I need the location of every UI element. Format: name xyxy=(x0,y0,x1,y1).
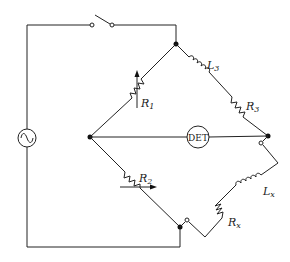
detector-label: DET xyxy=(188,133,208,143)
svg-text:R2: R2 xyxy=(138,172,152,186)
resistor-r1: R1 xyxy=(90,44,176,137)
svg-text:R3: R3 xyxy=(245,100,259,114)
switch xyxy=(90,15,176,44)
right-terminal xyxy=(259,141,263,145)
svg-text:Lx: Lx xyxy=(262,185,275,199)
svg-text:R1: R1 xyxy=(140,97,154,111)
bottom-terminal xyxy=(185,218,189,222)
svg-text:L3: L3 xyxy=(206,59,219,73)
bridge-circuit-diagram: R1 L3 R3 DET R2 Rx xyxy=(0,0,290,262)
svg-text:Rx: Rx xyxy=(227,216,241,230)
switch-contact-right xyxy=(110,23,114,27)
resistor-r3: R3 xyxy=(231,97,268,136)
switch-blade xyxy=(95,15,110,24)
switch-contact-left xyxy=(90,23,94,27)
resistor-rx: Rx xyxy=(189,185,241,237)
inductor-lx: Lx xyxy=(236,145,278,199)
detector: DET xyxy=(90,126,268,148)
resistor-r2: R2 xyxy=(90,137,180,227)
inductor-l3: L3 xyxy=(176,44,232,97)
left-wire xyxy=(27,25,180,247)
ac-source-icon xyxy=(18,129,36,147)
